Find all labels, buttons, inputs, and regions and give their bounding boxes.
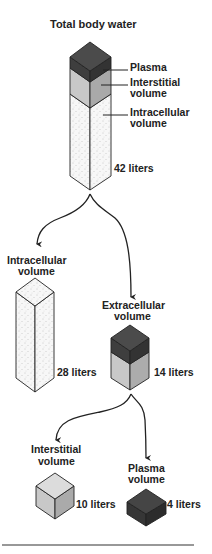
interstitial-heading-line2: volume <box>38 455 75 467</box>
diagram-title: Total body water <box>50 18 137 30</box>
interstitial-cube <box>36 473 74 519</box>
total-body-water-column <box>70 42 111 190</box>
arrow-to-plasma <box>131 394 146 458</box>
intracellular-label-line2: volume <box>130 117 167 129</box>
split-arrows-total <box>37 194 131 297</box>
intracellular-heading-line2: volume <box>18 265 55 277</box>
intracellular-prism <box>16 278 54 392</box>
extracellular-cube <box>111 325 149 390</box>
body-water-diagram: Total body water Plasma Interstitial vol… <box>0 0 212 554</box>
arrow-to-extracellular <box>90 194 131 297</box>
plasma-volume-value: 4 liters <box>167 498 201 510</box>
intracellular-volume-value: 28 liters <box>57 366 97 378</box>
plasma-heading-line2: volume <box>128 473 165 485</box>
extracellular-volume-value: 14 liters <box>154 366 194 378</box>
interstitial-volume-value: 10 liters <box>76 498 116 510</box>
arrow-to-interstitial <box>56 394 131 440</box>
total-volume-value: 42 liters <box>114 162 154 174</box>
interstitial-heading-line1: Interstitial <box>31 443 81 455</box>
plasma-label: Plasma <box>130 61 167 73</box>
plasma-box <box>127 489 166 526</box>
interstitial-label-line2: volume <box>130 87 167 99</box>
extracellular-heading-line2: volume <box>114 310 151 322</box>
arrow-to-intracellular <box>37 194 90 244</box>
